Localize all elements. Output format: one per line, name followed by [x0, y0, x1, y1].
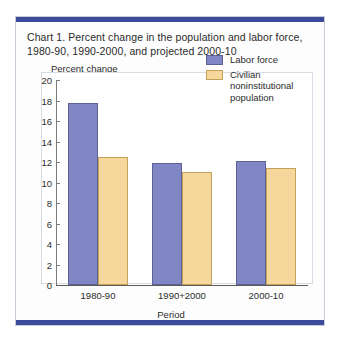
legend-item: Civilian noninstitutional population	[206, 69, 324, 104]
bar	[236, 161, 266, 285]
bar	[266, 168, 296, 285]
legend-label: Labor force	[230, 54, 278, 66]
chart-legend: Labor forceCivilian noninstitutional pop…	[206, 54, 324, 106]
x-axis-tick-label: 1990+2000	[137, 290, 227, 301]
bar	[68, 103, 98, 285]
chart-screenshot: Chart 1. Percent change in the populatio…	[0, 0, 343, 346]
x-axis-title: Period	[16, 309, 326, 320]
legend-item: Labor force	[206, 54, 324, 66]
legend-swatch	[206, 55, 223, 65]
bar	[182, 172, 212, 285]
legend-swatch	[206, 70, 223, 80]
x-axis-line	[56, 285, 308, 286]
chart-card: Chart 1. Percent change in the populatio…	[15, 16, 325, 326]
bar	[98, 157, 128, 285]
x-axis-tick-label: 2000-10	[221, 290, 311, 301]
card-bottom-band	[16, 320, 324, 325]
x-axis-tick-label: 1980-90	[53, 290, 143, 301]
legend-label: Civilian noninstitutional population	[230, 69, 324, 104]
bar	[152, 163, 182, 285]
chart-body: Chart 1. Percent change in the populatio…	[16, 22, 324, 320]
